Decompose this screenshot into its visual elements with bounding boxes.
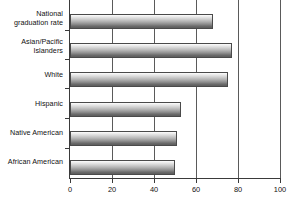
y-axis-label: Hispanic (0, 100, 63, 109)
y-axis-label: Native American (0, 129, 63, 138)
bar-white (70, 72, 228, 87)
plot-area (70, 0, 281, 178)
x-axis-tick (238, 179, 239, 183)
x-axis-tick-label: 80 (225, 185, 251, 194)
y-axis-label: National graduation rate (0, 10, 63, 27)
bar-asian-pacific-islanders (70, 43, 232, 58)
x-axis-tick-label: 60 (183, 185, 209, 194)
y-axis-labels: National graduation rate Asian/Pacific I… (0, 0, 67, 178)
gridline-100 (280, 0, 281, 178)
bar-national-graduation-rate (70, 14, 213, 29)
bar-native-american (70, 131, 177, 146)
bar-hispanic (70, 102, 181, 117)
y-axis-tick (65, 88, 69, 89)
x-axis-tick-label: 100 (267, 185, 293, 194)
bar-chart: National graduation rate Asian/Pacific I… (0, 0, 293, 202)
y-axis-tick (65, 30, 69, 31)
bar-african-american (70, 160, 175, 175)
x-axis-line (69, 178, 281, 179)
x-axis-tick-label: 0 (57, 185, 83, 194)
y-axis-tick (65, 148, 69, 149)
x-axis-tick-label: 40 (141, 185, 167, 194)
y-axis-label: White (0, 71, 63, 80)
y-axis-tick (65, 59, 69, 60)
x-axis-tick (280, 179, 281, 183)
x-axis-tick (154, 179, 155, 183)
y-axis-label: Asian/Pacific Islanders (0, 38, 63, 55)
x-axis-tick (70, 179, 71, 183)
x-axis-tick (196, 179, 197, 183)
gridline-80 (238, 0, 239, 178)
x-axis-tick (112, 179, 113, 183)
y-axis-tick (65, 118, 69, 119)
y-axis-label: African American (0, 158, 63, 167)
x-axis-tick-label: 20 (99, 185, 125, 194)
